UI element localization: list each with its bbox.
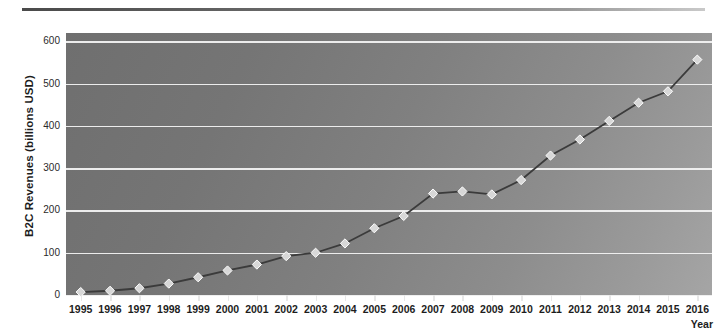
x-tick-mark — [169, 295, 171, 301]
data-point-marker — [605, 116, 614, 125]
data-point-marker — [194, 273, 203, 282]
data-point-marker — [634, 98, 643, 107]
x-tick-mark — [374, 295, 376, 301]
x-tick-mark — [492, 295, 494, 301]
x-axis-title: Year — [691, 318, 713, 330]
data-point-marker — [282, 252, 291, 261]
data-point-marker — [370, 224, 379, 233]
y-tick-label: 600 — [26, 36, 60, 46]
data-point-marker — [575, 135, 584, 144]
x-tick-mark — [257, 295, 259, 301]
x-tick-mark — [345, 295, 347, 301]
x-tick-mark — [228, 295, 230, 301]
x-tick-mark — [521, 295, 523, 301]
x-axis-tick-labels: 1995199619971998199920002001200220032004… — [0, 303, 727, 319]
top-divider-rule — [22, 8, 705, 11]
y-tick-label: 100 — [26, 248, 60, 258]
data-point-marker — [458, 187, 467, 196]
chart-figure: B2C Revenues (billions USD) 010020030040… — [0, 0, 727, 334]
x-tick-mark — [286, 295, 288, 301]
data-point-marker — [223, 266, 232, 275]
data-point-marker — [164, 279, 173, 288]
x-tick-mark — [639, 295, 641, 301]
x-tick-label: 2016 — [677, 303, 717, 315]
x-tick-mark — [316, 295, 318, 301]
series-line-b2c-revenues — [66, 33, 712, 295]
series-polyline — [81, 60, 698, 292]
x-tick-mark — [668, 295, 670, 301]
x-tick-mark — [697, 295, 699, 301]
data-point-marker — [252, 260, 261, 269]
x-tick-mark — [609, 295, 611, 301]
x-axis-tick-marks — [66, 295, 712, 301]
data-point-marker — [135, 284, 144, 293]
data-point-marker — [487, 190, 496, 199]
x-tick-mark — [139, 295, 141, 301]
data-point-marker — [340, 239, 349, 248]
data-point-marker — [105, 286, 114, 295]
y-tick-label: 500 — [26, 79, 60, 89]
x-tick-mark — [551, 295, 553, 301]
y-tick-label: 300 — [26, 163, 60, 173]
x-tick-mark — [433, 295, 435, 301]
plot-area — [66, 33, 712, 295]
x-tick-mark — [81, 295, 83, 301]
y-axis-tick-labels: 0100200300400500600 — [26, 0, 60, 334]
y-tick-label: 400 — [26, 121, 60, 131]
y-tick-label: 200 — [26, 205, 60, 215]
data-point-marker — [311, 248, 320, 257]
x-tick-mark — [198, 295, 200, 301]
x-tick-mark — [580, 295, 582, 301]
x-tick-mark — [462, 295, 464, 301]
x-tick-mark — [110, 295, 112, 301]
y-tick-label: 0 — [26, 290, 60, 300]
x-tick-mark — [404, 295, 406, 301]
